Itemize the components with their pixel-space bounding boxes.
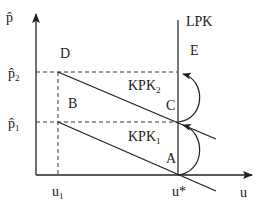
- ustar-tick-label: u*: [172, 184, 186, 199]
- point-c-label: C: [166, 98, 175, 113]
- kpk2-label: KPK2: [128, 78, 161, 95]
- economics-diagram: p̂ u p̂2 p̂1 u1 u* LPK KPK2 KPK1 D B C A…: [0, 0, 266, 204]
- y-axis-label: p̂: [6, 10, 13, 25]
- point-b-label: B: [68, 96, 77, 111]
- p2-tick-label: p̂2: [8, 66, 20, 83]
- arrow-a-to-c: [178, 125, 200, 175]
- point-d-label: D: [60, 46, 70, 61]
- p1-tick-label: p̂1: [8, 116, 20, 133]
- kpk1-label: KPK1: [128, 129, 161, 146]
- point-e-label: E: [190, 43, 199, 58]
- u1-tick-label: u1: [52, 184, 64, 201]
- arrow-c-to-e: [178, 74, 200, 122]
- lpk-label: LPK: [186, 14, 212, 29]
- point-a-label: A: [166, 151, 177, 166]
- x-axis-label: u: [240, 185, 247, 200]
